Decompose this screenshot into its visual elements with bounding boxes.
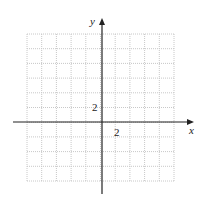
x-axis-label: x [189, 125, 194, 136]
y-axis-label: y [90, 16, 95, 27]
coordinate-plane [0, 0, 207, 207]
y-axis-arrow-icon [99, 18, 105, 25]
x-tick-label-2: 2 [114, 127, 120, 138]
y-tick-label-2: 2 [92, 102, 98, 113]
